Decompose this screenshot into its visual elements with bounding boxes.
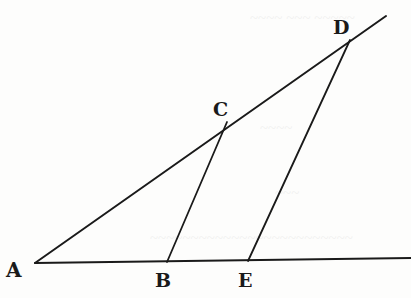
point-label-c: C xyxy=(213,100,228,119)
point-label-d: D xyxy=(333,18,349,37)
geometric-figure: ~~~~ ~~~ ~~~~~ ~~~~ ~~~ ~~~~~~~~~~~~~~~~… xyxy=(0,0,411,298)
point-label-b: B xyxy=(155,271,171,290)
line-cb xyxy=(167,122,227,262)
line-de xyxy=(248,40,350,261)
line-acd xyxy=(35,16,386,263)
point-label-e: E xyxy=(238,271,252,290)
diagram-lines xyxy=(0,0,411,298)
line-abe xyxy=(35,258,411,263)
point-label-a: A xyxy=(6,260,22,280)
